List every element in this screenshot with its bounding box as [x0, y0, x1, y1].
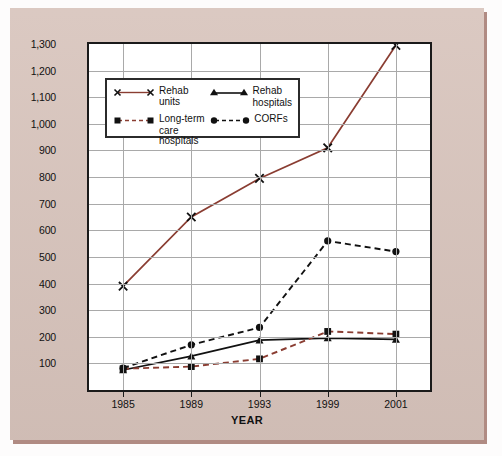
legend-label-long-term-line2: care hospitals: [159, 125, 208, 147]
y-tick-label-1000: 1,000: [0, 118, 56, 130]
y-tick-label-500: 500: [0, 251, 56, 263]
legend-entry-corfs: CORFs: [210, 113, 292, 147]
legend-label-rehab-hospitals-line2: hospitals: [253, 97, 292, 109]
y-tick-label-300: 300: [0, 304, 56, 316]
x-tick-mark-2001: [396, 392, 397, 397]
y-tick-label-1100: 1,100: [0, 91, 56, 103]
y-tick-label-800: 800: [0, 171, 56, 183]
x-axis-title: YEAR: [10, 414, 484, 426]
legend-label-long-term-line1: Long-term: [159, 113, 208, 125]
y-tick-label-700: 700: [0, 198, 56, 210]
legend-row-1: Rehab units Rehab hospitals: [113, 85, 292, 108]
x-tick-mark-1985: [123, 392, 124, 397]
y-tick-label-100: 100: [0, 357, 56, 369]
y-tick-label-900: 900: [0, 144, 56, 156]
chart-legend: Rehab units Rehab hospitals: [105, 78, 300, 138]
x-tick-mark-1993: [260, 392, 261, 397]
legend-marker-circle-dashed-icon: [210, 116, 250, 125]
gridline-x-1999: [328, 44, 329, 390]
y-tick-label-200: 200: [0, 331, 56, 343]
x-tick-mark-1989: [191, 392, 192, 397]
x-tick-mark-1999: [328, 392, 329, 397]
paper-background: Number of rehab providers 10020030040050…: [10, 8, 484, 440]
x-tick-label-1985: 1985: [93, 398, 153, 410]
legend-label-long-term-wrap: Long-term care hospitals: [159, 113, 208, 147]
legend-label-rehab-hospitals-wrap: Rehab hospitals: [253, 85, 292, 108]
x-tick-label-1993: 1993: [230, 398, 290, 410]
legend-entry-rehab-hospitals: Rehab hospitals: [209, 85, 292, 108]
legend-label-corfs: CORFs: [254, 113, 287, 125]
legend-entry-long-term-care-hospitals: Long-term care hospitals: [113, 113, 208, 147]
y-tick-label-400: 400: [0, 278, 56, 290]
x-tick-label-1999: 1999: [298, 398, 358, 410]
y-tick-label-1200: 1,200: [0, 65, 56, 77]
scanned-chart-page: Number of rehab providers 10020030040050…: [0, 0, 502, 456]
legend-marker-triangle-solid-icon: [209, 88, 249, 97]
y-tick-label-600: 600: [0, 224, 56, 236]
gridline-x-2001: [396, 44, 397, 390]
legend-row-2: Long-term care hospitals CORFs: [113, 113, 292, 147]
y-tick-label-1300: 1,300: [0, 38, 56, 50]
legend-entry-rehab-units: Rehab units: [113, 85, 207, 108]
x-tick-label-1989: 1989: [161, 398, 221, 410]
legend-label-rehab-units: Rehab units: [159, 85, 207, 107]
legend-marker-square-dashed-icon: [113, 116, 155, 125]
x-tick-label-2001: 2001: [366, 398, 426, 410]
legend-marker-x-solid-icon: [113, 88, 155, 97]
legend-label-rehab-hospitals-line1: Rehab: [253, 85, 292, 97]
